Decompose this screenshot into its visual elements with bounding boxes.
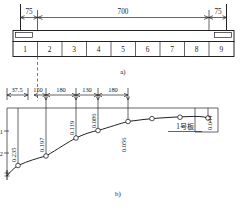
value-label-0.235: 0.235 (10, 148, 17, 162)
panel-b-caption: b) (115, 190, 122, 198)
dim-left-overhang: 75 (21, 8, 38, 19)
cell-label-9: 9 (220, 45, 224, 54)
value-label-0.197: 0.197 (38, 137, 45, 152)
dim-left-overhang-label: 75 (25, 8, 33, 16)
cell-label-5: 5 (121, 45, 125, 54)
cell-label-3: 3 (72, 45, 76, 54)
left-bearing-block (16, 33, 33, 38)
panel-a: 1 2 3 4 5 6 7 8 9 75 700 (13, 4, 234, 76)
spacing-dimension-chain: 37.5 150 180 130 180 (7, 86, 128, 100)
engineering-diagram: 1 2 3 4 5 6 7 8 9 75 700 (0, 0, 247, 213)
dim-right-overhang: 75 (209, 8, 227, 19)
cell-label-2: 2 (48, 45, 52, 54)
spacing-label-5: 180 (108, 86, 118, 93)
spacing-label-3: 180 (56, 86, 66, 93)
data-point (178, 115, 183, 120)
panel-a-caption: a) (120, 68, 126, 76)
data-point (44, 154, 49, 159)
right-bearing-block (215, 33, 232, 38)
diagram-canvas: 1 2 3 4 5 6 7 8 9 75 700 (0, 0, 247, 213)
value-label-0.119: 0.119 (68, 121, 75, 135)
spacing-label-1: 37.5 (11, 86, 22, 93)
y-axis-ticks: 0.1 0.2 (0, 128, 9, 157)
data-point (74, 136, 79, 141)
panel-b: 37.5 150 180 130 180 (0, 86, 218, 198)
cell-label-6: 6 (146, 45, 150, 54)
support-symbol (5, 170, 10, 180)
plate-legend-label: 1号板 (176, 122, 194, 131)
data-point (16, 163, 21, 168)
cell-label-4: 4 (97, 45, 101, 54)
dim-main-span-label: 700 (118, 8, 129, 16)
spacing-label-2: 150 (33, 86, 43, 93)
cell-label-1: 1 (23, 45, 27, 54)
plate-legend: 1号板 (168, 122, 202, 132)
beam-upper-band (13, 31, 234, 42)
cell-label-8: 8 (195, 45, 199, 54)
dim-main-span: 700 (38, 8, 210, 19)
data-point (150, 116, 155, 121)
y-tick-label-0.2: 0.2 (0, 150, 3, 157)
value-label-0.044: 0.044 (206, 115, 213, 130)
value-label-0.056: 0.056 (120, 138, 127, 152)
data-point (126, 119, 131, 124)
y-tick-label-0.1: 0.1 (0, 128, 3, 135)
cell-label-7: 7 (170, 45, 174, 54)
value-label-0.086: 0.086 (90, 114, 97, 128)
spacing-label-4: 130 (82, 86, 92, 93)
dim-right-overhang-label: 75 (214, 8, 222, 16)
